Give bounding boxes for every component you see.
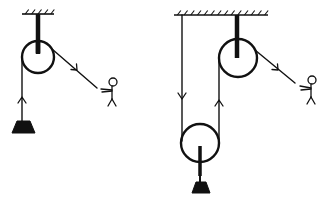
- right-load-weight: [192, 182, 210, 193]
- left-system: [12, 10, 117, 134]
- left-person-icon: [101, 78, 117, 106]
- right-ceiling: [174, 11, 268, 16]
- pulley-diagram: [0, 0, 324, 201]
- left-load-weight: [12, 121, 35, 133]
- right-person-icon: [300, 76, 316, 104]
- left-pull-rope: [52, 49, 97, 88]
- right-system: [174, 11, 316, 194]
- left-ceiling: [22, 10, 54, 15]
- right-pull-rope: [255, 50, 295, 83]
